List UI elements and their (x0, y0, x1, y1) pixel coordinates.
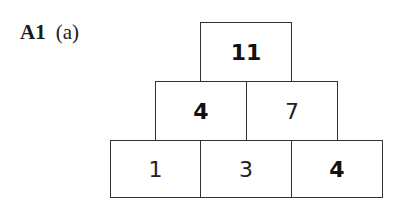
pyramid-cell-middle-right: 7 (246, 81, 338, 141)
question-number: A1 (20, 20, 46, 44)
question-label: A1(a) (20, 20, 79, 45)
pyramid-cell-bottom-left: 1 (110, 140, 201, 198)
question-part: (a) (56, 20, 79, 44)
pyramid-cell-bottom-middle: 3 (200, 140, 292, 198)
pyramid-cell-top: 11 (200, 22, 292, 82)
pyramid-cell-middle-left: 4 (155, 81, 247, 141)
pyramid-cell-bottom-right: 4 (291, 140, 383, 198)
